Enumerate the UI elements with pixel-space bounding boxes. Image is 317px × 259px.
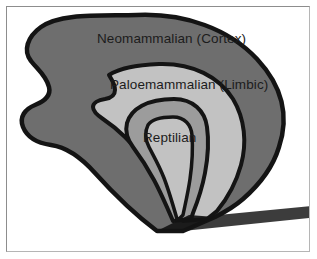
figure-container: Neomammalian (Cortex) Paloemammalian (Li… xyxy=(0,0,317,259)
triune-brain-illustration xyxy=(7,7,309,251)
diagram-canvas: Neomammalian (Cortex) Paloemammalian (Li… xyxy=(7,7,309,251)
